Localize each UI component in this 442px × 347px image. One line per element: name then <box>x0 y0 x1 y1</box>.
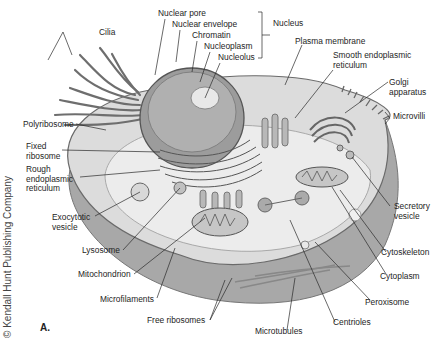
label-golgi: Golgi apparatus <box>389 78 426 97</box>
label-free-ribosomes: Free ribosomes <box>147 316 205 326</box>
label-nucleoplasm: Nucleoplasm <box>204 42 252 52</box>
label-polyribosome: Polyribosome <box>23 120 74 130</box>
label-rough-er: Rough endoplasmic reticulum <box>26 165 73 194</box>
label-plasma-membrane: Plasma membrane <box>295 37 365 47</box>
label-cytoplasm: Cytoplasm <box>380 272 420 282</box>
panel-label: A. <box>40 322 50 333</box>
label-peroxisome: Peroxisome <box>365 298 409 308</box>
label-nuclear-envelope: Nuclear envelope <box>172 20 237 30</box>
cell-diagram: Cilia Nuclear pore Nuclear envelope Chro… <box>0 0 442 347</box>
label-secretory-vesicle: Secretory vesicle <box>394 202 430 221</box>
label-exocytotic-vesicle: Exocytotic vesicle <box>52 213 90 232</box>
label-microtubules: Microtubules <box>255 327 302 337</box>
label-smooth-er: Smooth endoplasmic reticulum <box>333 51 411 70</box>
copyright-text: © Kendall Hunt Publishing Company <box>2 176 13 338</box>
label-cytoskeleton: Cytoskeleton <box>381 248 429 258</box>
label-microfilaments: Microfilaments <box>100 295 154 305</box>
label-microvilli: Microvilli <box>393 112 425 122</box>
mitochondrion-icon-2 <box>296 167 348 187</box>
label-centrioles: Centrioles <box>333 318 371 328</box>
label-nucleolus: Nucleolus <box>218 53 255 63</box>
label-chromatin: Chromatin <box>192 31 231 41</box>
label-nuclear-pore: Nuclear pore <box>158 9 206 19</box>
label-lysosome: Lysosome <box>82 246 120 256</box>
label-mitochondrion: Mitochondrion <box>78 270 131 280</box>
label-cilia: Cilia <box>99 28 115 38</box>
label-fixed-ribosome: Fixed ribosome <box>26 142 60 161</box>
label-nucleus: Nucleus <box>273 19 303 29</box>
